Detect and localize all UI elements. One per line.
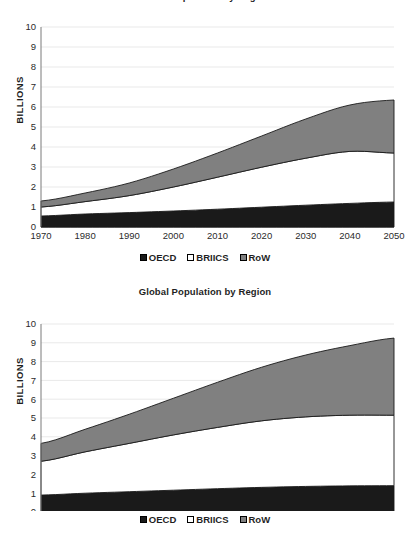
svg-text:7: 7 [31,81,36,92]
legend-label-oecd: OECD [149,252,176,263]
svg-text:9: 9 [31,41,36,52]
legend-item-briics[interactable]: BRIICS [187,514,228,525]
legend-urban: OECD BRIICS RoW [0,249,410,265]
square-swatch-icon [140,516,147,523]
svg-text:2040: 2040 [339,230,360,241]
plot-area-urban: BILLIONS 0123456789101970198019902000201… [0,4,410,249]
svg-text:6: 6 [31,394,36,405]
svg-text:2010: 2010 [207,230,228,241]
legend-item-briics[interactable]: BRIICS [187,252,228,263]
svg-text:5: 5 [31,121,36,132]
legend-label-oecd: OECD [149,514,176,525]
svg-text:1: 1 [31,201,36,212]
chart-title-global: Global Population by Region [0,285,410,299]
legend-label-row: RoW [249,252,271,263]
legend-label-briics: BRIICS [196,514,228,525]
square-swatch-icon [187,254,194,261]
svg-text:3: 3 [31,450,36,461]
chart-urban-population: Urban Population by Region BILLIONS 0123… [0,0,410,275]
svg-text:2: 2 [31,181,36,192]
chart-global-population: Global Population by Region BILLIONS 012… [0,285,410,539]
svg-text:7: 7 [31,375,36,386]
svg-text:4: 4 [31,141,36,152]
chart-page: Urban Population by Region BILLIONS 0123… [0,0,410,539]
svg-text:2: 2 [31,469,36,480]
svg-text:6: 6 [31,101,36,112]
svg-text:9: 9 [31,337,36,348]
svg-text:1970: 1970 [30,230,51,241]
legend-item-row[interactable]: RoW [240,514,271,525]
square-swatch-icon [187,516,194,523]
legend-item-oecd[interactable]: OECD [140,514,176,525]
svg-text:3: 3 [31,161,36,172]
svg-text:8: 8 [31,61,36,72]
svg-text:10: 10 [25,318,36,329]
svg-text:8: 8 [31,356,36,367]
square-swatch-icon [240,254,247,261]
svg-text:1980: 1980 [75,230,96,241]
svg-text:4: 4 [31,431,36,442]
square-swatch-icon [140,254,147,261]
square-swatch-icon [240,516,247,523]
svg-text:2030: 2030 [295,230,316,241]
legend-item-row[interactable]: RoW [240,252,271,263]
svg-text:2050: 2050 [383,230,404,241]
svg-text:1: 1 [31,488,36,499]
svg-text:10: 10 [25,21,36,32]
svg-text:2020: 2020 [251,230,272,241]
legend-label-briics: BRIICS [196,252,228,263]
svg-text:1990: 1990 [119,230,140,241]
legend-global: OECD BRIICS RoW [0,511,410,527]
svg-text:2000: 2000 [163,230,184,241]
svg-text:5: 5 [31,412,36,423]
legend-label-row: RoW [249,514,271,525]
legend-item-oecd[interactable]: OECD [140,252,176,263]
plot-area-global: BILLIONS 0123456789101970198019902000201… [0,299,410,511]
chart-svg-urban: 0123456789101970198019902000201020202030… [0,4,410,249]
chart-svg-global: 0123456789101970198019902000201020202030… [0,299,410,511]
